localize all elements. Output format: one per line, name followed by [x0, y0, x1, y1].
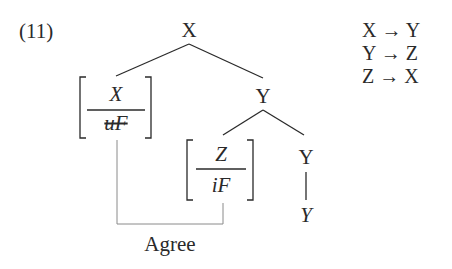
- rule-item: Z → X: [362, 65, 420, 88]
- rule-list: X → Y Y → Z Z → X: [362, 19, 420, 88]
- rule-item: X → Y: [362, 19, 420, 42]
- root-node: X: [181, 20, 196, 41]
- agree-label: Agree: [144, 234, 195, 255]
- inner-bracket-open: [187, 140, 193, 200]
- inner-category: Z: [215, 144, 227, 165]
- agree-connector: [117, 140, 223, 224]
- rule-item: Y → Z: [362, 42, 420, 65]
- left-category: X: [110, 84, 123, 105]
- rule-from: Y: [362, 42, 376, 64]
- rule-from: Z: [362, 65, 374, 87]
- branch-root-left: [116, 44, 189, 76]
- left-bracket-open: [80, 77, 86, 138]
- rule-from: X: [362, 19, 376, 41]
- arrow-icon: →: [379, 65, 399, 87]
- terminal-node: Y: [300, 205, 312, 226]
- left-feature-uninterpretable: uF: [104, 113, 127, 134]
- right-node: Y: [298, 147, 313, 168]
- arrow-icon: →: [381, 19, 401, 41]
- inner-bracket-close: [247, 140, 253, 200]
- mid-node: Y: [255, 86, 270, 107]
- arrow-icon: →: [381, 42, 401, 64]
- left-bracket-close: [145, 77, 151, 138]
- rule-to: Y: [406, 19, 420, 41]
- branch-y-right: [263, 110, 304, 135]
- inner-feature-interpretable: iF: [212, 175, 231, 196]
- branch-root-right: [189, 44, 263, 78]
- rule-to: Z: [406, 42, 418, 64]
- branch-y-left: [223, 110, 263, 135]
- rule-to: X: [404, 65, 418, 87]
